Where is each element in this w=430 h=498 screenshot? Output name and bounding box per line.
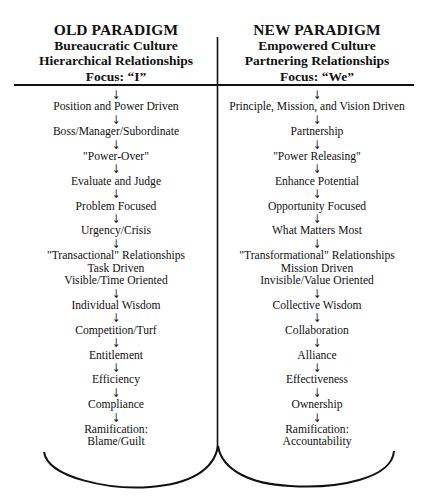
left-paradigm-item: "Transactional" Relationships bbox=[14, 250, 218, 262]
down-arrow-icon: ↓ bbox=[238, 114, 396, 126]
old-paradigm-list: ↓Position and Power Driven↓Boss/Manager/… bbox=[14, 89, 218, 449]
down-arrow-icon: ↓ bbox=[238, 238, 396, 250]
left-paradigm-item: Blame/Guilt bbox=[14, 436, 218, 448]
down-arrow-icon: ↓ bbox=[238, 412, 396, 424]
down-arrow-icon: ↓ bbox=[34, 312, 197, 324]
down-arrow-icon: ↓ bbox=[238, 337, 396, 349]
down-arrow-icon: ↓ bbox=[238, 139, 396, 151]
down-arrow-icon: ↓ bbox=[34, 213, 197, 225]
right-paradigm-item: Accountability bbox=[218, 436, 416, 448]
down-arrow-icon: ↓ bbox=[34, 114, 197, 126]
down-arrow-icon: ↓ bbox=[34, 288, 197, 300]
old-paradigm-culture: Bureaucratic Culture bbox=[14, 38, 218, 54]
new-paradigm-culture: Empowered Culture bbox=[218, 38, 416, 54]
down-arrow-icon: ↓ bbox=[34, 337, 197, 349]
down-arrow-icon: ↓ bbox=[34, 362, 197, 374]
new-paradigm-header: NEW PARADIGM Empowered Culture Partnerin… bbox=[218, 22, 416, 84]
down-arrow-icon: ↓ bbox=[238, 188, 396, 200]
down-arrow-icon: ↓ bbox=[238, 288, 396, 300]
down-arrow-icon: ↓ bbox=[34, 238, 197, 250]
new-paradigm-relationships: Partnering Relationships bbox=[218, 53, 416, 69]
old-paradigm-relationships: Hierarchical Relationships bbox=[14, 53, 218, 69]
down-arrow-icon: ↓ bbox=[238, 362, 396, 374]
down-arrow-icon: ↓ bbox=[238, 89, 396, 101]
down-arrow-icon: ↓ bbox=[34, 163, 197, 175]
down-arrow-icon: ↓ bbox=[238, 213, 396, 225]
down-arrow-icon: ↓ bbox=[34, 412, 197, 424]
down-arrow-icon: ↓ bbox=[34, 139, 197, 151]
new-paradigm-title: NEW PARADIGM bbox=[218, 22, 416, 38]
down-arrow-icon: ↓ bbox=[34, 387, 197, 399]
down-arrow-icon: ↓ bbox=[238, 387, 396, 399]
down-arrow-icon: ↓ bbox=[34, 89, 197, 101]
new-paradigm-focus: Focus: “We” bbox=[218, 69, 416, 85]
right-paradigm-item: "Transformational" Relationships bbox=[218, 250, 416, 262]
right-bowl-curve bbox=[218, 446, 394, 486]
old-paradigm-header: OLD PARADIGM Bureaucratic Culture Hierar… bbox=[14, 22, 218, 84]
down-arrow-icon: ↓ bbox=[238, 163, 396, 175]
old-paradigm-focus: Focus: “I” bbox=[14, 69, 218, 85]
left-bowl-curve bbox=[44, 446, 218, 487]
down-arrow-icon: ↓ bbox=[238, 312, 396, 324]
old-paradigm-title: OLD PARADIGM bbox=[14, 22, 218, 38]
new-paradigm-list: ↓Principle, Mission, and Vision Driven↓P… bbox=[218, 89, 416, 449]
down-arrow-icon: ↓ bbox=[34, 188, 197, 200]
